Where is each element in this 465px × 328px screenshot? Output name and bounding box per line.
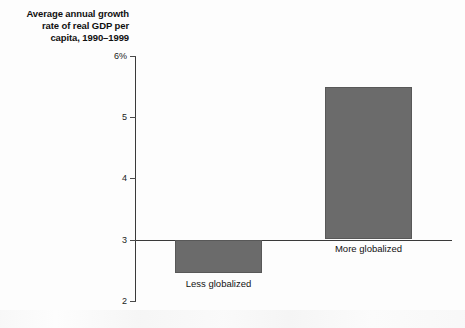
y-tick-label: 2 [122, 296, 127, 306]
y-tick-mark [130, 240, 136, 241]
y-tick-label: 4 [122, 173, 127, 183]
y-tick-mark [130, 301, 136, 302]
gdp-growth-bar-chart: Average annual growth rate of real GDP p… [0, 0, 465, 328]
chart-title-line-1: Average annual growth [8, 8, 129, 20]
y-tick-mark [130, 56, 136, 57]
scan-artifact-band [0, 310, 465, 328]
bar-label-more-globalized: More globalized [310, 243, 427, 254]
bar-more-globalized[interactable] [325, 87, 412, 240]
y-tick-mark [130, 117, 136, 118]
y-tick-label: 3 [122, 235, 127, 245]
bar-label-less-globalized: Less globalized [160, 278, 277, 289]
y-tick-label: 6% [114, 51, 127, 61]
bar-less-globalized[interactable] [175, 240, 262, 274]
y-tick-label: 5 [122, 112, 127, 122]
chart-title-line-2: rate of real GDP per [8, 20, 129, 32]
plot-area: 6% 5 4 3 2 1 0 −1 −2 [135, 56, 452, 301]
chart-title-line-3: capita, 1990–1999 [8, 32, 129, 44]
chart-title: Average annual growth rate of real GDP p… [8, 8, 129, 45]
y-tick-mark [130, 178, 136, 179]
